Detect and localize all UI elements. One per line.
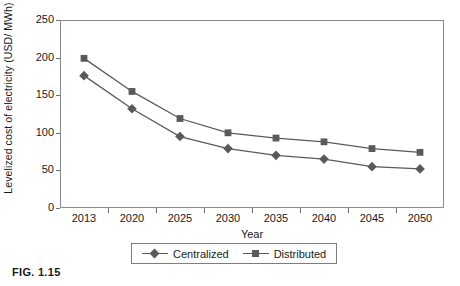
square-marker-icon	[243, 249, 269, 259]
y-tick-label: 50	[0, 164, 54, 175]
y-tick-mark	[56, 20, 60, 21]
x-tick-mark	[252, 208, 253, 213]
x-tick-mark	[348, 208, 349, 213]
legend-label-centralized: Centralized	[173, 248, 229, 260]
y-tick-label: 150	[0, 89, 54, 100]
x-tick-mark	[108, 208, 109, 213]
y-tick-mark	[56, 208, 60, 209]
chart-legend: Centralized Distributed	[131, 243, 337, 264]
diamond-marker-icon	[142, 249, 168, 259]
y-tick-mark	[56, 95, 60, 96]
y-tick-mark	[56, 133, 60, 134]
x-tick-mark	[300, 208, 301, 213]
x-tick-label: 2050	[390, 212, 450, 224]
x-tick-mark	[396, 208, 397, 213]
y-tick-mark	[56, 58, 60, 59]
y-tick-label: 0	[0, 202, 54, 213]
plot-area	[60, 20, 444, 208]
legend-label-distributed: Distributed	[274, 248, 327, 260]
y-tick-label: 100	[0, 127, 54, 138]
x-axis-title: Year	[60, 228, 444, 240]
x-tick-mark	[204, 208, 205, 213]
figure-root: Levelized cost of electricity (USD/ MWh)…	[0, 0, 460, 286]
y-tick-label: 250	[0, 14, 54, 25]
legend-item-centralized: Centralized	[142, 248, 229, 260]
legend-item-distributed: Distributed	[243, 248, 327, 260]
y-tick-mark	[56, 170, 60, 171]
x-tick-mark	[156, 208, 157, 213]
y-tick-label: 200	[0, 52, 54, 63]
figure-caption: FIG. 1.15	[12, 266, 61, 278]
y-axis-title: Levelized cost of electricity (USD/ MWh)	[2, 0, 14, 278]
